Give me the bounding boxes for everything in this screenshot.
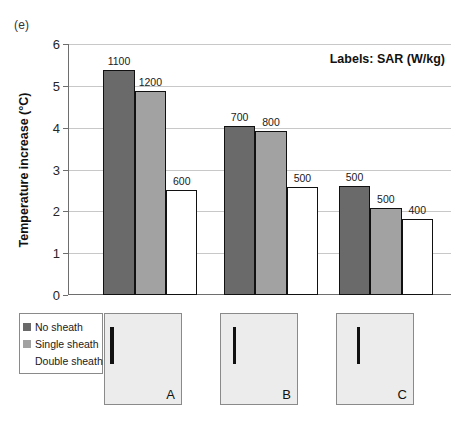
panel-probe-line-marker (357, 327, 360, 365)
bar-a-no-sheath (103, 70, 134, 295)
legend-item-single-sheath[interactable]: Single sheath (23, 335, 98, 352)
y-axis-tick-label: 2 (26, 204, 60, 219)
legend-item-no-sheath[interactable]: No sheath (23, 318, 98, 335)
chart-note-label: Labels: SAR (W/kg) (330, 52, 445, 66)
bar-value-label: 600 (173, 175, 191, 187)
bar-value-label: 500 (346, 171, 364, 183)
bar-b-no-sheath (224, 126, 255, 295)
legend-item-double-sheath[interactable]: Double sheath (23, 352, 98, 369)
y-axis-tick-label: 5 (26, 78, 60, 93)
figure-panel-letter: (e) (14, 18, 29, 32)
bar-a-single-sheath (135, 91, 166, 295)
panel-probe-line-marker (233, 327, 236, 365)
y-axis-tick-label: 0 (26, 288, 60, 303)
bar-value-label: 1200 (139, 76, 162, 88)
image-panel-letter: A (166, 387, 175, 402)
bar-c-double-sheath (402, 219, 433, 295)
bar-a-double-sheath (166, 190, 197, 295)
image-panel-b: B (220, 313, 298, 405)
y-axis-tick-mark (63, 295, 68, 296)
image-panel-a: A (104, 313, 182, 405)
image-panel-letter: B (282, 387, 291, 402)
bar-value-label: 700 (231, 111, 249, 123)
y-axis-tick-label: 3 (26, 162, 60, 177)
bar-value-label: 400 (409, 204, 427, 216)
panel-probe-line-marker (110, 327, 114, 365)
bar-c-single-sheath (370, 208, 401, 295)
image-panel-letter: C (398, 387, 407, 402)
bar-b-single-sheath (255, 131, 286, 295)
bar-b-double-sheath (287, 187, 318, 295)
bar-chart-plot-area: 0123456 11001200600700800500500500400 Te… (68, 44, 451, 295)
y-axis-tick-label: 1 (26, 246, 60, 261)
bar-value-label: 1100 (108, 55, 131, 67)
legend-swatch-icon (23, 340, 31, 348)
y-axis-label: Temperature increase (°C) (17, 92, 31, 247)
bar-c-no-sheath (339, 186, 370, 295)
gridline (68, 44, 451, 45)
y-axis-tick-label: 4 (26, 120, 60, 135)
legend-swatch-icon (23, 357, 31, 365)
legend-item-label: Single sheath (35, 338, 99, 350)
legend-item-label: Double sheath (35, 355, 103, 367)
bar-value-label: 500 (377, 193, 395, 205)
y-axis-tick-label: 6 (26, 37, 60, 52)
chart-legend: No sheathSingle sheathDouble sheath (19, 313, 103, 374)
bar-value-label: 500 (294, 172, 312, 184)
y-axis-line (68, 44, 69, 295)
image-panel-c: C (336, 313, 414, 405)
bar-value-label: 800 (262, 116, 280, 128)
legend-item-label: No sheath (35, 321, 83, 333)
legend-swatch-icon (23, 323, 31, 331)
